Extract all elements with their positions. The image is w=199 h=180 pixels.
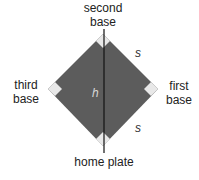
first-base-label-line2: base	[161, 93, 197, 107]
diagonal-h-label: h	[92, 86, 99, 100]
second-base-label-line1: second	[78, 1, 128, 15]
third-base-label: third base	[8, 78, 44, 106]
side-s-lower-label: s	[135, 121, 141, 135]
third-base-label-line2: base	[8, 92, 44, 106]
first-base-label-line1: first	[161, 79, 197, 93]
third-base-label-line1: third	[8, 78, 44, 92]
second-base-label: second base	[78, 1, 128, 29]
second-base-label-line2: base	[78, 15, 128, 29]
home-plate-label: home plate	[68, 155, 140, 169]
side-s-upper-label: s	[135, 46, 141, 60]
infield-diamond	[48, 34, 158, 146]
first-base-label: first base	[161, 79, 197, 107]
